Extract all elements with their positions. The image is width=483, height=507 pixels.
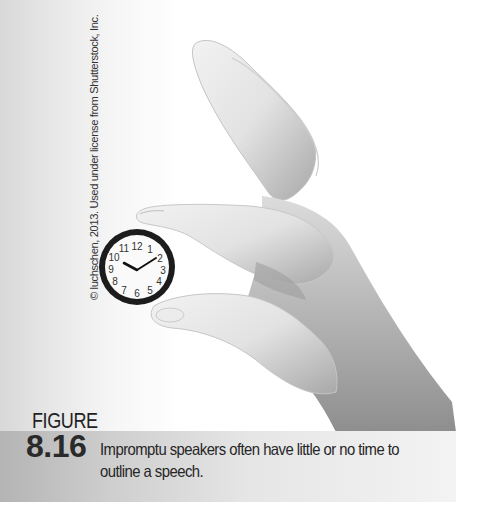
svg-text:5: 5 (147, 285, 153, 296)
svg-text:12: 12 (131, 241, 143, 252)
figure-number: 8.16 (26, 428, 86, 465)
caption-line-2: outline a speech. (100, 460, 424, 482)
photo-credit: © luchschen, 2013. Used under license fr… (88, 15, 100, 300)
svg-text:2: 2 (157, 253, 163, 264)
svg-text:7: 7 (121, 285, 127, 296)
svg-text:8: 8 (112, 276, 118, 287)
svg-text:11: 11 (119, 243, 130, 254)
svg-text:9: 9 (108, 264, 114, 275)
caption-line-1: Impromptu speakers often have little or … (100, 438, 424, 460)
clock-icon: 12 1 2 3 4 5 6 7 8 9 10 11 (99, 229, 175, 305)
svg-text:3: 3 (160, 265, 166, 276)
svg-text:1: 1 (147, 244, 153, 255)
svg-text:6: 6 (134, 288, 140, 299)
figure-caption: Impromptu speakers often have little or … (100, 438, 424, 482)
svg-text:4: 4 (156, 276, 162, 287)
hand-icon (136, 40, 456, 432)
